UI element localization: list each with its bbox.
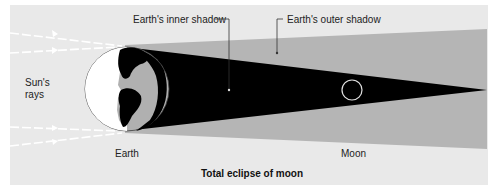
eclipse-diagram <box>0 0 495 192</box>
diagram-title: Total eclipse of moon <box>201 168 303 179</box>
inner-shadow-label: Earth's inner shadow <box>133 14 226 25</box>
earth-globe <box>85 47 169 131</box>
moon-label: Moon <box>341 148 366 159</box>
sun-rays-label-line2: rays <box>25 89 44 100</box>
sun-rays-label-line1: Sun's <box>25 77 50 88</box>
moon <box>342 80 362 100</box>
outer-shadow-label: Earth's outer shadow <box>287 14 381 25</box>
earth-label: Earth <box>115 148 139 159</box>
